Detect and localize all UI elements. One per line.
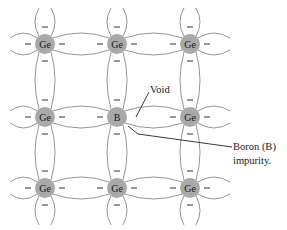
bond-line [10, 33, 37, 38]
impurity-annotation: Boron (B) impurity. [128, 126, 276, 166]
atom-symbol: Ge [184, 183, 196, 194]
bond-line [51, 196, 55, 225]
atom-symbol: Ge [39, 112, 51, 123]
bond-line [196, 8, 200, 36]
bond-line [180, 125, 184, 180]
void-annotation: Void [136, 84, 170, 117]
atom-ge: Ge [107, 34, 127, 54]
atom-ge: Ge [35, 178, 55, 198]
atom-ge: Ge [107, 178, 127, 198]
atom-symbol: Ge [111, 39, 123, 50]
bond-line [107, 125, 111, 180]
bond-line [125, 33, 182, 38]
atom-ge: Ge [180, 107, 200, 127]
bond-line [125, 123, 182, 128]
bond-line [198, 177, 230, 182]
bond-line [53, 106, 109, 111]
bond-line [53, 177, 109, 182]
atom-ge: Ge [35, 34, 55, 54]
atoms: GeGeGeGeBGeGeGeGe [35, 34, 200, 198]
bond-line [107, 196, 111, 225]
atom-symbol: Ge [184, 39, 196, 50]
bond-line [35, 196, 39, 225]
bond-line [10, 50, 37, 55]
bond-line [123, 196, 127, 225]
atom-symbol: Ge [39, 39, 51, 50]
atom-symbol: Ge [184, 112, 196, 123]
bond-line [51, 52, 55, 109]
atom-symbol: Ge [111, 183, 123, 194]
bond-line [196, 52, 200, 109]
atom-symbol: Ge [39, 183, 51, 194]
bond-line [125, 106, 182, 111]
bond-line [198, 194, 230, 199]
bond-line [10, 194, 37, 199]
bond-line [51, 8, 55, 36]
bond-line [123, 52, 127, 109]
bond-line [53, 33, 109, 38]
crystal-lattice-diagram: GeGeGeGeBGeGeGeGe Void Boron (B) impurit… [0, 0, 287, 230]
bond-line [196, 125, 200, 180]
bond-line [107, 8, 111, 36]
bond-line [180, 8, 184, 36]
bond-line [10, 106, 37, 111]
void-leader-line [136, 92, 149, 117]
bond-line [123, 8, 127, 36]
atom-ge: Ge [35, 107, 55, 127]
atom-ge: Ge [180, 34, 200, 54]
bond-line [180, 52, 184, 109]
impurity-label-line1: Boron (B) [233, 141, 276, 153]
bond-line [198, 123, 230, 128]
bond-line [35, 52, 39, 109]
impurity-label-line2: impurity. [233, 155, 271, 166]
bond-line [51, 125, 55, 180]
bond-line [35, 125, 39, 180]
atom-b: B [107, 107, 127, 127]
void-label: Void [150, 84, 170, 95]
bond-line [53, 50, 109, 55]
bond-line [10, 123, 37, 128]
bond-line [53, 123, 109, 128]
bond-line [53, 194, 109, 199]
bond-line [198, 50, 230, 55]
atom-symbol: B [114, 112, 121, 123]
atom-ge: Ge [180, 178, 200, 198]
bond-line [107, 52, 111, 109]
bond-line [198, 106, 230, 111]
bond-line [180, 196, 184, 225]
bond-line [35, 8, 39, 36]
bond-line [125, 50, 182, 55]
bond-line [125, 177, 182, 182]
bond-line [10, 177, 37, 182]
bond-line [196, 196, 200, 225]
bond-line [198, 33, 230, 38]
bond-line [125, 194, 182, 199]
bond-line [123, 125, 127, 180]
